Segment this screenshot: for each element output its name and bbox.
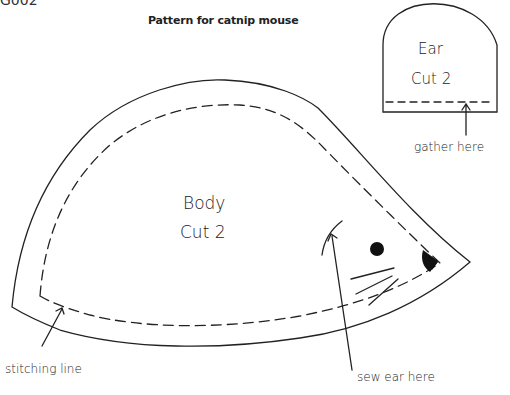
body-cut-instruction: Cut 2 <box>180 222 226 242</box>
nose-fill <box>422 250 438 272</box>
sew-ear-arrow <box>328 234 352 370</box>
pattern-drawing <box>0 0 510 395</box>
stitching-line-note: stitching line <box>5 362 82 376</box>
eye <box>370 242 384 256</box>
ear-cut-instruction: Cut 2 <box>411 70 451 88</box>
ear-label: Ear <box>418 40 443 58</box>
whisker <box>369 279 398 305</box>
gather-here-note: gather here <box>414 140 484 154</box>
gather-arrow <box>462 104 470 135</box>
body-stitching-line <box>40 105 440 326</box>
sew-ear-here-note: sew ear here <box>357 370 435 384</box>
stitching-arrow <box>42 308 64 346</box>
body-label: Body <box>183 193 225 213</box>
body-outline <box>12 80 470 346</box>
pattern-sheet: G002 Pattern for catnip mouse <box>0 0 510 395</box>
whisker <box>351 268 394 279</box>
